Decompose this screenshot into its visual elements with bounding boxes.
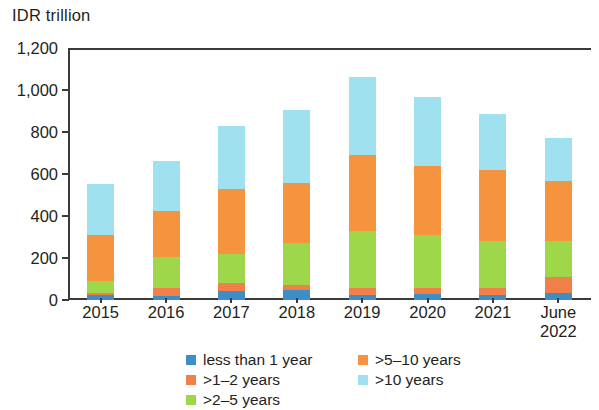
bar-segment [479,170,506,241]
y-axis-tick-label: 200 [0,250,58,267]
legend-swatch-icon [358,355,368,365]
y-axis-tick-label: 400 [0,208,58,225]
bar-group[interactable] [218,48,245,300]
bar-segment [153,211,180,257]
legend-item[interactable]: >10 years [358,370,461,389]
bar-segment [283,243,310,285]
bar-segment [218,283,245,291]
legend-swatch-icon [186,395,196,405]
bar-group[interactable] [479,48,506,300]
bar-segment [349,77,376,155]
bar-segment [153,161,180,211]
bar-segment [414,235,441,288]
bar-segment [283,183,310,243]
legend-item-label: >5–10 years [375,352,461,368]
bar-segment [349,155,376,231]
bar-segment [283,110,310,184]
legend-item[interactable]: >1–2 years [186,370,312,389]
bar-group[interactable] [545,48,572,300]
bar-segment [414,97,441,165]
bar-segment [218,126,245,189]
y-axis-unit-title: IDR trillion [12,6,91,25]
legend-item[interactable]: >2–5 years [186,390,312,409]
legend-swatch-icon [358,375,368,385]
bar-segment [87,184,114,235]
bar-segment [545,181,572,241]
bar-segment [153,288,180,296]
y-axis-tick-label: 1,200 [0,40,58,57]
legend-column-left: less than 1 year>1–2 years>2–5 years [186,350,312,410]
bar-group[interactable] [87,48,114,300]
y-axis-tick-label: 600 [0,166,58,183]
bar-segment [218,189,245,254]
x-axis-labels: 2015201620172018201920202021June 2022 [68,303,591,351]
bar-segment [414,166,441,235]
legend-item-label: >2–5 years [203,392,280,408]
bar-stack [349,77,376,300]
x-axis-tick-label: June 2022 [518,303,598,341]
bar-group[interactable] [414,48,441,300]
legend-item-label: less than 1 year [203,352,312,368]
y-axis-tick-label: 800 [0,124,58,141]
bar-segment [153,257,180,288]
bar-stack [545,138,572,300]
bar-segment [545,277,572,293]
bar-segment [545,138,572,181]
bar-segment [218,254,245,282]
legend-swatch-icon [186,375,196,385]
bar-segment [479,114,506,170]
legend-item[interactable]: >5–10 years [358,350,461,369]
legend-swatch-icon [186,355,196,365]
bar-segment [479,288,506,295]
bar-segment [349,231,376,289]
bar-stack [87,184,114,301]
bar-segment [87,235,114,281]
bar-stack [414,97,441,300]
legend-item-label: >10 years [375,372,444,388]
bar-segment [349,288,376,295]
bar-stack [479,114,506,300]
bar-stack [218,126,245,300]
y-axis-tick-label: 0 [0,292,58,309]
bar-group[interactable] [283,48,310,300]
chart-legend: less than 1 year>1–2 years>2–5 years >5–… [186,350,516,406]
bar-stack [153,161,180,300]
bar-group[interactable] [153,48,180,300]
bar-segment [479,241,506,288]
y-axis-tick-label: 1,000 [0,82,58,99]
legend-item[interactable]: less than 1 year [186,350,312,369]
bar-segment [87,281,114,293]
bars-layer [68,48,591,300]
bar-segment [545,241,572,277]
bar-group[interactable] [349,48,376,300]
legend-column-right: >5–10 years>10 years [358,350,461,390]
legend-item-label: >1–2 years [203,372,280,388]
bar-stack [283,110,310,300]
